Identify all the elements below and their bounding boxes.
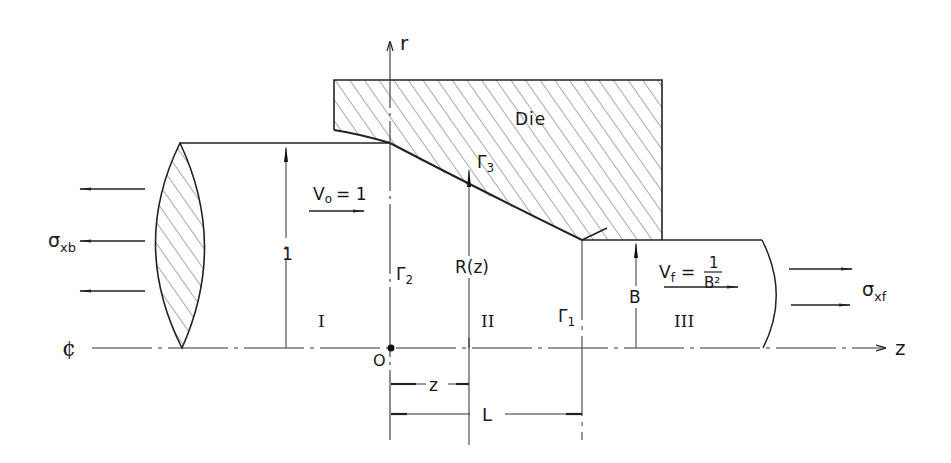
die-length-label: L: [482, 404, 492, 425]
die-radius-label: R(z): [455, 257, 489, 277]
entry-radius-label: 1: [282, 244, 293, 264]
svg-text:Vf=: Vf=: [659, 262, 695, 285]
region-III-label: III: [674, 311, 694, 331]
svg-text:Vo= 1: Vo= 1: [313, 184, 366, 206]
die-length-dimension: L: [391, 404, 582, 425]
die-body: [334, 80, 662, 240]
svg-text:1: 1: [709, 254, 719, 272]
die-label: Die: [515, 109, 546, 129]
region-I-label: I: [318, 311, 325, 331]
entry-radius-dimension: 1: [282, 146, 293, 348]
r-axis-label: r: [400, 31, 409, 55]
svg-text:B²: B²: [704, 274, 720, 292]
entry-velocity: Vo= 1: [309, 184, 366, 211]
origin-point: [388, 345, 395, 352]
die-radius-dimension: R(z): [455, 169, 503, 445]
exit-radius-label: B: [629, 287, 641, 307]
exit-radius-dimension: B: [628, 242, 644, 348]
back-stress-label: σxb: [48, 229, 76, 255]
extrusion-diagram: z ¢ r O Die 1 R(z) B Γ1 Γ2: [0, 0, 951, 463]
gamma2-label: Γ2: [396, 264, 413, 287]
z-axis-label: z: [895, 336, 906, 360]
front-stress-label: σxf: [862, 278, 887, 304]
front-stress-arrows: σxf: [789, 269, 887, 305]
exit-velocity: Vf= 1 B²: [659, 254, 738, 292]
back-stress-arrows: σxb: [48, 189, 145, 291]
region-II-label: II: [481, 311, 494, 331]
billet-exit: [662, 240, 776, 348]
z-axis: z ¢: [62, 336, 906, 361]
z-distance-dimension: z: [391, 375, 469, 395]
back-end-lens: [155, 143, 204, 348]
origin-label: O: [373, 351, 386, 370]
z-distance-label: z: [429, 375, 438, 395]
gamma1-symbol: Γ1: [558, 306, 575, 329]
gamma1-boundary: Γ1: [558, 240, 582, 440]
centerline-symbol: ¢: [62, 336, 76, 361]
